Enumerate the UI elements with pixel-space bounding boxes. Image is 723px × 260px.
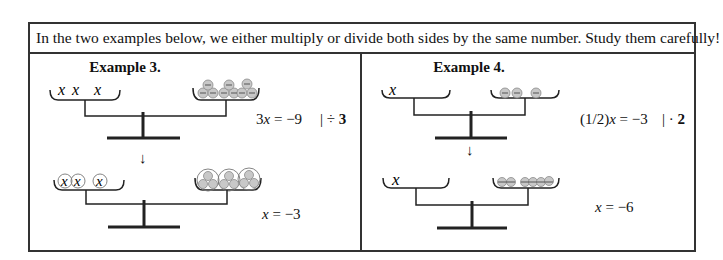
balance-scale-step1: x: [382, 81, 559, 138]
down-arrow-icon: ↓: [466, 142, 474, 159]
balance-scale-step1: x x x: [50, 79, 259, 138]
example-4-equation-step2: x = −6: [595, 199, 634, 216]
example-3-balance-scales: x x x: [30, 54, 360, 252]
x-term: x: [57, 81, 65, 98]
svg-text:x: x: [60, 173, 68, 189]
svg-text:x: x: [73, 173, 81, 189]
balance-scale-step2: x x x: [54, 168, 261, 227]
example-4-operation: | · 2: [662, 111, 685, 128]
intro-text: In the two examples below, we either mul…: [30, 24, 694, 54]
example-3-operation: | ÷ 3: [320, 111, 346, 128]
svg-text:x: x: [95, 173, 103, 189]
examples-frame: In the two examples below, we either mul…: [28, 22, 696, 252]
example-4-balance-scales: x x: [362, 54, 696, 252]
balance-scale-step2: x: [383, 170, 559, 228]
negative-one-chips: [198, 79, 257, 98]
example-3-panel: Example 3. x x x: [30, 54, 362, 252]
svg-text:x: x: [388, 81, 396, 98]
down-arrow-icon: ↓: [139, 150, 147, 167]
example-4-equation-step1: (1/2)x = −3: [580, 111, 648, 128]
svg-text:x: x: [93, 81, 101, 98]
example-4-panel: Example 4. x x: [362, 54, 696, 252]
svg-text:x: x: [71, 81, 79, 98]
example-3-equation-step1: 3x = −9: [256, 111, 302, 128]
example-3-equation-step2: x = −3: [262, 206, 301, 223]
svg-text:x: x: [391, 170, 400, 189]
